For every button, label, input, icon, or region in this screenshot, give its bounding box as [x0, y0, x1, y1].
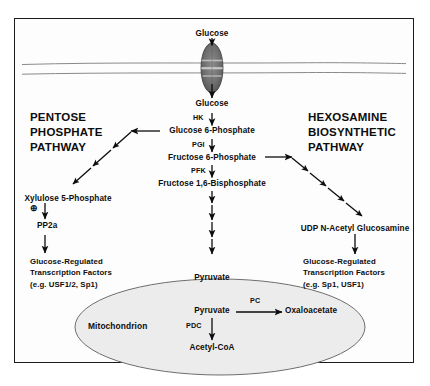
tf-right-line-2: Transcription Factors	[303, 267, 385, 278]
label-glucose-intracellular: Glucose	[195, 99, 228, 109]
label-fructose-1-6-bisphosphate: Fructose 1,6-Bisphosphate	[158, 179, 266, 189]
label-fructose-6-phosphate: Fructose 6-Phosphate	[168, 153, 256, 163]
transcription-factors-right: Glucose-Regulated Transcription Factors …	[303, 256, 385, 290]
label-glucose-extracellular: Glucose	[195, 29, 228, 39]
label-acetyl-coa: Acetyl-CoA	[189, 343, 234, 353]
label-udp-n-acetyl-glucosamine: UDP N-Acetyl Glucosamine	[301, 224, 410, 234]
heading-pentose-phosphate-pathway: PENTOSE PHOSPHATE PATHWAY	[30, 110, 103, 156]
label-oxaloacetate: Oxaloacetate	[285, 306, 337, 316]
label-glucose-6-phosphate: Glucose 6-Phosphate	[169, 126, 255, 136]
label-enzyme-pgi: PGI	[192, 141, 205, 149]
label-mitochondrion: Mitochondrion	[88, 322, 147, 332]
pathway-figure: Glucose Glucose HK Glucose 6-Phosphate P…	[0, 0, 430, 386]
tf-right-line-1: Glucose-Regulated	[303, 256, 385, 267]
label-pyruvate-mitochondrial: Pyruvate	[194, 306, 229, 316]
tf-left-line-2: Transcription Factors	[30, 267, 112, 278]
heading-left-line-3: PATHWAY	[30, 140, 103, 155]
heading-right-line-2: BIOSYNTHETIC	[308, 125, 396, 140]
heading-left-line-2: PHOSPHATE	[30, 125, 103, 140]
tf-left-line-3: (e.g. USF1/2, Sp1)	[30, 279, 112, 290]
label-pp2a: PP2a	[37, 221, 57, 231]
label-enzyme-pfk: PFK	[191, 167, 206, 175]
heading-right-line-3: PATHWAY	[308, 140, 396, 155]
tf-right-line-3: (e.g. Sp1, USF1)	[303, 279, 385, 290]
label-enzyme-pc: PC	[250, 297, 260, 305]
tf-left-line-1: Glucose-Regulated	[30, 256, 112, 267]
heading-left-line-1: PENTOSE	[30, 110, 103, 125]
heading-hexosamine-biosynthetic-pathway: HEXOSAMINE BIOSYNTHETIC PATHWAY	[308, 110, 396, 156]
label-enzyme-hk: HK	[193, 114, 204, 122]
transcription-factors-left: Glucose-Regulated Transcription Factors …	[30, 256, 112, 290]
activation-plus-icon: ⊕	[30, 203, 38, 213]
heading-right-line-1: HEXOSAMINE	[308, 110, 396, 125]
label-enzyme-pdc: PDC	[186, 322, 201, 330]
label-pyruvate-cytosolic: Pyruvate	[194, 273, 229, 283]
